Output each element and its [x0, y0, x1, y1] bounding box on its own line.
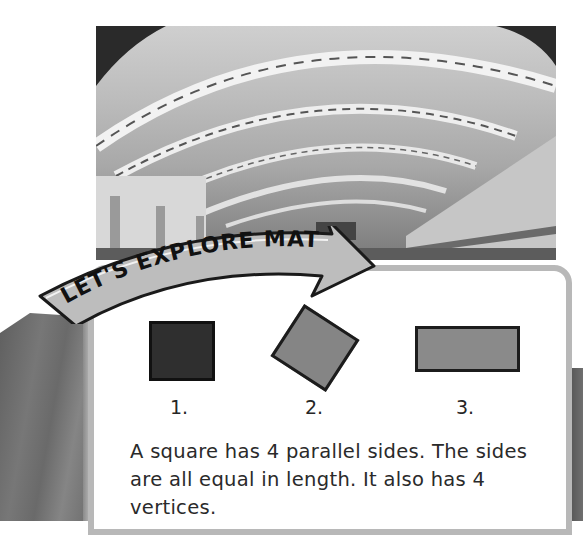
- shape-rectangle: [415, 326, 520, 372]
- shape-label-1: 1.: [170, 396, 188, 418]
- lets-explore-math-banner: LET'S EXPLORE MATH: [36, 226, 376, 324]
- airport-terminal-photo: [96, 26, 556, 260]
- shape-label-2: 2.: [305, 396, 323, 418]
- left-decorative-panel: [0, 305, 92, 521]
- terminal-illustration: [96, 26, 556, 260]
- shape-label-3: 3.: [456, 396, 474, 418]
- shape-square-dark: [149, 321, 215, 381]
- body-paragraph: A square has 4 parallel sides. The sides…: [130, 438, 550, 522]
